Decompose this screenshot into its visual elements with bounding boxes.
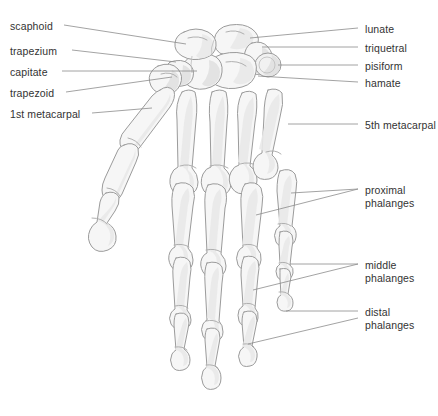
bone-metacarpal-4 bbox=[229, 91, 257, 194]
bone-metacarpal-2 bbox=[170, 90, 198, 196]
label-5th-metacarpal: 5th metacarpal bbox=[365, 119, 436, 132]
label-capitate: capitate bbox=[10, 66, 48, 79]
hand-skeleton-diagram: scaphoid trapezium capitate trapezoid 1s… bbox=[0, 0, 438, 416]
bone-scaphoid bbox=[175, 29, 216, 60]
bone-pisiform bbox=[255, 53, 281, 77]
label-lunate: lunate bbox=[365, 23, 394, 36]
label-proximal-phalanges: proximal phalanges bbox=[365, 184, 414, 209]
bone-metacarpal-3 bbox=[201, 90, 231, 197]
label-distal-phalanges: distal phalanges bbox=[365, 306, 414, 331]
label-trapezoid: trapezoid bbox=[10, 87, 54, 100]
label-pisiform: pisiform bbox=[365, 60, 403, 73]
label-scaphoid: scaphoid bbox=[10, 20, 53, 33]
label-1st-metacarpal: 1st metacarpal bbox=[10, 108, 80, 121]
label-triquetral: triquetral bbox=[365, 42, 407, 55]
label-hamate: hamate bbox=[365, 77, 401, 90]
bone-thumb-distal-phalanx bbox=[88, 192, 119, 251]
bone-metacarpal-1 bbox=[120, 87, 175, 152]
label-trapezium: trapezium bbox=[10, 45, 57, 58]
label-middle-phalanges: middle phalanges bbox=[365, 259, 414, 284]
bone-metacarpal-5 bbox=[253, 89, 283, 179]
